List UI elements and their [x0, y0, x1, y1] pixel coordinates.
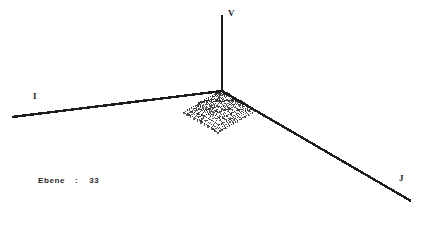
plot-canvas: Ebene : 33 I V J	[0, 0, 430, 249]
status-label: Ebene	[38, 176, 65, 185]
status-readout: Ebene : 33	[38, 176, 99, 185]
status-value: 33	[89, 176, 99, 185]
axis-label-j: J	[399, 173, 404, 183]
status-separator: :	[75, 176, 78, 185]
wireframe-surface-svg	[0, 0, 430, 249]
axis-label-v: V	[228, 8, 235, 18]
axis-lines	[12, 15, 411, 201]
axis-label-i: I	[33, 91, 37, 101]
